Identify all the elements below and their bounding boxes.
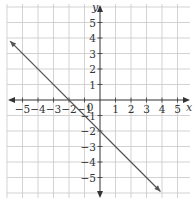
y-tick-label: −5 [81,172,96,184]
x-tick-label: −4 [30,103,46,115]
line-y-equals-neg-x-minus-2 [10,41,160,191]
x-tick-label: −5 [15,103,30,115]
origin-label: 0 [87,101,94,113]
y-tick-label: 4 [89,32,96,44]
y-tick-label: 2 [89,63,96,75]
x-tick-label: 5 [174,103,181,115]
coordinate-plane: −5−4−3−2−11234554321−1−2−3−4−50xy [0,0,193,204]
axes [8,5,190,198]
y-tick-label: 3 [89,48,96,60]
x-tick-label: 1 [112,103,119,115]
tick-labels: −5−4−3−2−11234554321−1−2−3−4−50xy [15,1,193,184]
x-axis-label: x [186,101,193,114]
y-tick-label: −3 [81,141,96,153]
y-tick-label: 5 [89,17,96,29]
x-tick-label: 2 [128,103,135,115]
y-tick-label: −2 [81,125,96,137]
plot-line [10,41,160,191]
y-tick-label: 1 [89,79,96,91]
y-axis-down-arrow-icon [97,191,103,198]
x-tick-label: −3 [46,103,61,115]
x-tick-label: 4 [159,103,166,115]
y-axis-label: y [91,1,99,14]
grid-lines [7,4,190,198]
y-tick-label: −4 [81,156,97,168]
x-tick-label: 3 [143,103,150,115]
